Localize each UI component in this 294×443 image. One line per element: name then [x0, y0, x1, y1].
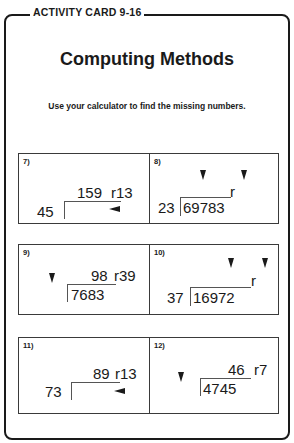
instructions: Use your calculator to find the missing … [0, 101, 294, 111]
dividend: 7683 [71, 287, 104, 302]
problem-number: 12) [154, 341, 165, 350]
missing-quotient-arrow-icon [200, 170, 206, 180]
problem-number: 8) [154, 157, 161, 166]
divisor: 23 [158, 200, 175, 215]
divisor: 73 [45, 384, 62, 399]
dividend: 4745 [203, 381, 236, 396]
problem-9: 9) 98 r39 7683 [18, 244, 150, 315]
remainder: r13 [111, 185, 133, 200]
missing-quotient-arrow-icon [228, 258, 234, 268]
remainder: r7 [254, 362, 267, 377]
problem-10: 10) r 37 16972 [149, 244, 279, 315]
quotient: 89 [93, 366, 110, 381]
problem-11: 11) 89 r13 73 [18, 337, 150, 414]
division-bracket [71, 382, 120, 400]
missing-divisor-arrow-icon [49, 273, 55, 283]
problem-number: 11) [23, 341, 33, 350]
remainder: r [251, 273, 256, 288]
problem-number: 9) [23, 248, 30, 257]
divisor: 37 [167, 290, 184, 305]
dividend: 16972 [193, 290, 235, 305]
missing-dividend-arrow-icon [114, 388, 125, 394]
missing-divisor-arrow-icon [178, 372, 184, 382]
page-title: Computing Methods [0, 49, 294, 70]
missing-remainder-arrow-icon [241, 170, 247, 180]
remainder: r39 [114, 268, 136, 283]
missing-remainder-arrow-icon [262, 258, 268, 268]
card-label: ACTIVITY CARD 9-16 [30, 6, 144, 18]
problem-8: 8) r 23 69783 [149, 153, 279, 224]
problem-number: 7) [23, 157, 30, 166]
quotient: 46 [228, 362, 245, 377]
dividend: 69783 [183, 200, 225, 215]
divisor: 45 [37, 204, 54, 219]
quotient: 159 [77, 185, 102, 200]
problem-12: 12) 46 r7 4745 [149, 337, 279, 414]
missing-dividend-arrow-icon [109, 206, 120, 212]
quotient: 98 [91, 268, 108, 283]
remainder: r13 [115, 366, 137, 381]
problem-7: 7) 159 r13 45 [18, 153, 150, 224]
problem-number: 10) [154, 248, 165, 257]
